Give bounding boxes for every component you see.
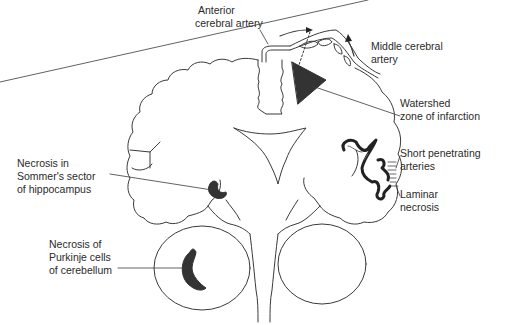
leader-watershed [312,86,400,116]
brainstem [250,234,258,322]
left-hemisphere-outline [127,58,258,224]
label-watershed-zone: Watershed zone of infarction [400,97,480,123]
purkinje-lesion [182,249,206,290]
right-hemisphere-outline [304,68,402,224]
label-short-penetrating-arteries: Short penetrating arteries [400,147,481,173]
watershed-infarction-zone [292,62,326,104]
label-sommer-sector: Necrosis in Sommer's sector of hippocamp… [17,157,95,196]
label-anterior-cerebral-artery: Anterior cerebral artery [195,4,263,30]
leader-anterior-cerebral-artery [260,30,268,44]
lateral-ventricles [234,128,306,184]
leader-sommer [110,174,212,190]
label-purkinje-cells: Necrosis of Purkinje cells of cerebellum [49,238,112,277]
right-cerebellum [278,224,366,304]
interhemispheric-fissure [258,60,283,114]
label-middle-cerebral-artery: Middle cerebral artery [371,40,443,66]
label-laminar-necrosis: Laminar necrosis [400,188,439,214]
